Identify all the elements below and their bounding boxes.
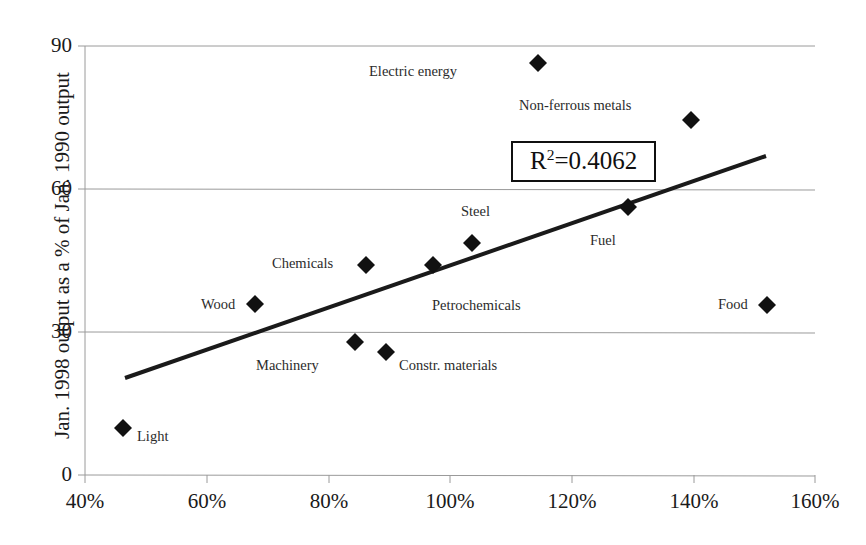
- r-squared-prefix: R: [530, 147, 547, 174]
- point-label-light: Light: [137, 428, 168, 445]
- plot-area: [0, 0, 866, 545]
- point-label-fuel: Fuel: [590, 232, 616, 249]
- gridline-y-30: [85, 332, 815, 333]
- data-point-non-ferrous-metals[interactable]: [682, 111, 700, 129]
- y-tick-label-0: 0: [38, 462, 72, 487]
- data-point-machinery[interactable]: [346, 333, 364, 351]
- data-point-food[interactable]: [758, 296, 776, 314]
- x-tick-label-160: 160%: [765, 489, 865, 514]
- data-point-electric-energy[interactable]: [529, 54, 547, 72]
- gridline-y-60: [85, 189, 815, 190]
- point-label-food: Food: [718, 296, 748, 313]
- point-label-non-ferrous-metals: Non-ferrous metals: [519, 97, 631, 114]
- data-points: [114, 54, 776, 437]
- data-point-wood[interactable]: [246, 295, 264, 313]
- point-label-constr-materials: Constr. materials: [399, 357, 497, 374]
- point-label-wood: Wood: [201, 296, 235, 313]
- x-tick-label-60: 60%: [157, 489, 257, 514]
- data-point-petrochemicals[interactable]: [424, 256, 442, 274]
- data-point-constr-materials[interactable]: [377, 343, 395, 361]
- point-label-steel: Steel: [461, 203, 490, 220]
- data-point-steel[interactable]: [463, 234, 481, 252]
- data-point-chemicals[interactable]: [357, 256, 375, 274]
- point-label-chemicals: Chemicals: [272, 255, 333, 272]
- point-label-petrochemicals: Petrochemicals: [432, 297, 521, 314]
- scatter-chart: 90 60 30 0 40% 60% 80% 100% 120% 140% 16…: [0, 0, 866, 545]
- point-label-electric-energy: Electric energy: [369, 63, 457, 80]
- x-tick-label-80: 80%: [279, 489, 379, 514]
- x-tick-label-100: 100%: [400, 489, 500, 514]
- r-squared-annotation: R2=0.4062: [511, 141, 656, 182]
- y-axis-title: Jan. 1998 output as a % of Jan. 1990 out…: [50, 46, 75, 466]
- x-tick-label-40: 40%: [35, 489, 135, 514]
- x-tick-label-140: 140%: [644, 489, 744, 514]
- point-label-machinery: Machinery: [256, 357, 319, 374]
- r-squared-suffix: =0.4062: [554, 147, 637, 174]
- x-tick-label-120: 120%: [522, 489, 622, 514]
- data-point-light[interactable]: [114, 419, 132, 437]
